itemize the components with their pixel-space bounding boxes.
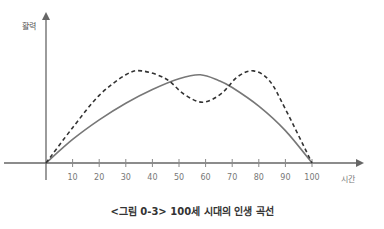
x-tick-label: 100 (304, 173, 319, 182)
y-axis-label: 활력 (22, 20, 36, 31)
x-axis-label: 시간 (341, 173, 355, 184)
x-tick-label: 90 (280, 173, 290, 182)
figure-caption: <그림 0-3> 100세 시대의 인생 곡선 (0, 203, 384, 218)
x-tick-label: 70 (227, 173, 237, 182)
x-tick-label: 50 (174, 173, 184, 182)
x-tick-label: 20 (94, 173, 104, 182)
x-tick-label: 80 (254, 173, 264, 182)
chart-canvas (0, 0, 384, 229)
x-tick-label: 30 (121, 173, 131, 182)
x-tick-label: 60 (201, 173, 211, 182)
x-tick-label: 40 (147, 173, 157, 182)
solid-curve (46, 75, 312, 163)
x-tick-label: 10 (68, 173, 78, 182)
